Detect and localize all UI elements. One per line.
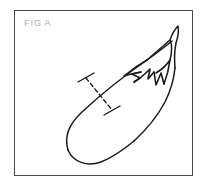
measurement-tick-end [104,106,120,115]
eggplant-drawing [14,10,193,176]
calyx-sepal-lobe-3 [154,72,164,85]
figure-label: FIG A [24,17,51,28]
fruit-body-upper-outline [67,41,172,150]
figure-root: FIG A [0,0,208,188]
calyx-sepal-lobe-2 [134,69,154,82]
calyx-collar [147,40,172,60]
fruit-blossom-end [68,141,134,164]
measurement-tick-start [78,73,94,82]
